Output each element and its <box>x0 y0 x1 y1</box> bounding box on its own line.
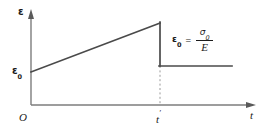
x-axis-tick-t-prime: t′ <box>156 112 161 125</box>
elastic-strain-formula: ε0 = σ0 E <box>172 28 213 53</box>
creep-ramp-segment <box>31 23 160 72</box>
formula-denominator: E <box>198 41 211 53</box>
y-axis-tick-epsilon-zero: ε0 <box>12 66 22 79</box>
formula-fraction: σ0 E <box>196 28 213 53</box>
formula-numerator: σ0 <box>197 28 213 40</box>
x-axis-label: t <box>250 110 253 121</box>
origin-label: O <box>19 112 27 123</box>
y-axis-arrowhead <box>28 9 34 19</box>
formula-lhs: ε0 <box>172 34 182 47</box>
y-axis-label: ε <box>18 7 24 17</box>
formula-equals-sign: = <box>186 35 192 46</box>
y-axis <box>28 9 34 105</box>
figure-svg <box>0 0 268 136</box>
x-axis-arrowhead <box>246 102 256 108</box>
strain-time-figure: ε ε0 O t′ t ε0 = σ0 E <box>0 0 268 136</box>
x-axis <box>31 102 256 108</box>
